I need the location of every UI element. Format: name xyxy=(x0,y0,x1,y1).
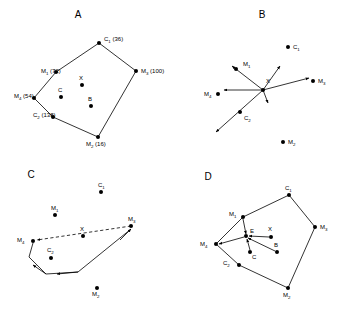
label-m2-b: M2 xyxy=(288,139,296,147)
label-c-a: C xyxy=(58,87,63,93)
panel-letter-a: A xyxy=(75,9,82,20)
vector-X-to-E-d xyxy=(249,236,269,237)
vector-to-down-short-b xyxy=(263,90,268,103)
vector-E-to-M4-d xyxy=(219,237,244,244)
label-m1-b: M1 xyxy=(243,61,251,69)
label-c1-a: C1 (36) xyxy=(104,36,123,44)
label-m3-a: M3 (100) xyxy=(141,68,164,76)
label-m2-a: M2 (16) xyxy=(86,141,106,149)
point-x-a xyxy=(80,83,84,87)
vector-C-to-E-d xyxy=(247,239,250,250)
label-m1-a: M1 (72) xyxy=(41,68,61,76)
label-c1-d: C1 xyxy=(285,185,292,193)
point-b-a xyxy=(89,104,93,108)
point-m3-c xyxy=(129,224,133,228)
label-m2-d: M2 xyxy=(283,292,291,300)
label-c1-c: C1 xyxy=(98,182,105,190)
point-x-b xyxy=(261,88,265,92)
point-c-a xyxy=(59,95,63,99)
vector-M1-to-E-d xyxy=(243,219,246,234)
label-m1-c: M1 xyxy=(51,205,59,213)
label-m4-b: M4 xyxy=(204,91,212,99)
panel-a: AC1 (36)M3 (100)M2 (16)C2 (138)M4 (54)M1… xyxy=(14,9,164,149)
label-m3-c: M3 xyxy=(128,216,136,224)
point-c1-d xyxy=(287,193,291,197)
point-c2-c xyxy=(49,256,53,260)
point-m3-a xyxy=(134,69,138,73)
label-x-b: X xyxy=(266,78,270,84)
panel-letter-b: B xyxy=(259,9,266,20)
panel-letter-c: C xyxy=(27,169,34,180)
label-m4-d: M4 xyxy=(200,241,208,249)
label-c1-b: C1 xyxy=(293,44,300,52)
point-c1-a xyxy=(97,41,101,45)
label-c2-b: C2 xyxy=(244,115,251,123)
point-m1-b xyxy=(234,67,238,71)
point-b-d xyxy=(275,250,279,254)
point-m4-c xyxy=(31,239,35,243)
point-c1-b xyxy=(286,45,290,49)
label-b-a: B xyxy=(88,96,92,102)
point-c2-d xyxy=(237,263,241,267)
point-x-c xyxy=(81,234,85,238)
label-b-d: B xyxy=(274,242,278,248)
label-m1-d: M1 xyxy=(229,211,237,219)
label-m3-b: M3 xyxy=(318,78,326,86)
point-m3-d xyxy=(313,225,317,229)
point-e-d xyxy=(244,234,248,238)
point-m3-b xyxy=(311,79,315,83)
panel-letter-d: D xyxy=(204,171,211,182)
point-c1-c xyxy=(99,190,103,194)
point-m1-d xyxy=(241,215,245,219)
path-arrowhead-0-c xyxy=(33,265,46,274)
vector-B-to-E-d xyxy=(248,238,275,251)
point-m2-a xyxy=(96,135,100,139)
point-c2-b xyxy=(238,110,242,114)
solid-path-return-circuit xyxy=(29,229,131,274)
figure-root: AC1 (36)M3 (100)M2 (16)C2 (138)M4 (54)M1… xyxy=(0,0,350,313)
point-m4-b xyxy=(216,92,220,96)
panel-c: CC1M1M3XM4C2M2 xyxy=(17,169,136,299)
point-m4-d xyxy=(214,242,218,246)
point-m2-b xyxy=(281,140,285,144)
point-m2-d xyxy=(286,286,290,290)
point-m2-c xyxy=(95,286,99,290)
label-c-d: C xyxy=(252,254,257,260)
label-m2-c: M2 xyxy=(92,291,100,299)
label-m3-d: M3 xyxy=(320,224,328,232)
label-x-c: X xyxy=(80,226,84,232)
polygon-outline-d xyxy=(216,195,315,288)
figure-canvas: AC1 (36)M3 (100)M2 (16)C2 (138)M4 (54)M1… xyxy=(0,0,350,313)
panel-d: DC1M3M2C2M4M1XBCE xyxy=(200,171,328,300)
label-x-d: X xyxy=(268,226,272,232)
point-m1-c xyxy=(53,213,57,217)
label-m4-c: M4 xyxy=(17,237,25,245)
path-arrowhead-2-c xyxy=(120,229,131,240)
label-e-d: E xyxy=(250,228,254,234)
label-x-a: X xyxy=(79,75,83,81)
label-c2-c: C2 xyxy=(47,247,54,255)
label-m4-a: M4 (54) xyxy=(14,93,34,101)
point-x-d xyxy=(269,235,273,239)
panel-b: BC1M3M4M2M1C2X xyxy=(204,9,326,147)
label-c2-d: C2 xyxy=(223,260,230,268)
polygon-outline-a xyxy=(34,43,136,137)
